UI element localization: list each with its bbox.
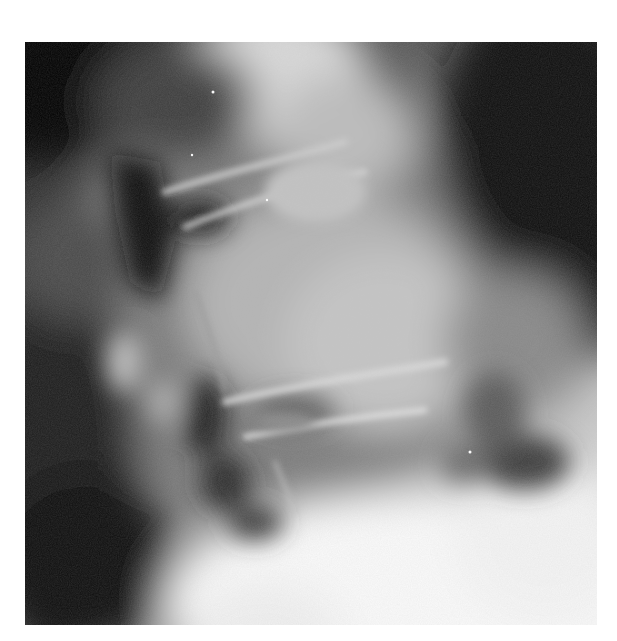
xray-image xyxy=(25,42,597,625)
xray-render xyxy=(25,42,597,625)
